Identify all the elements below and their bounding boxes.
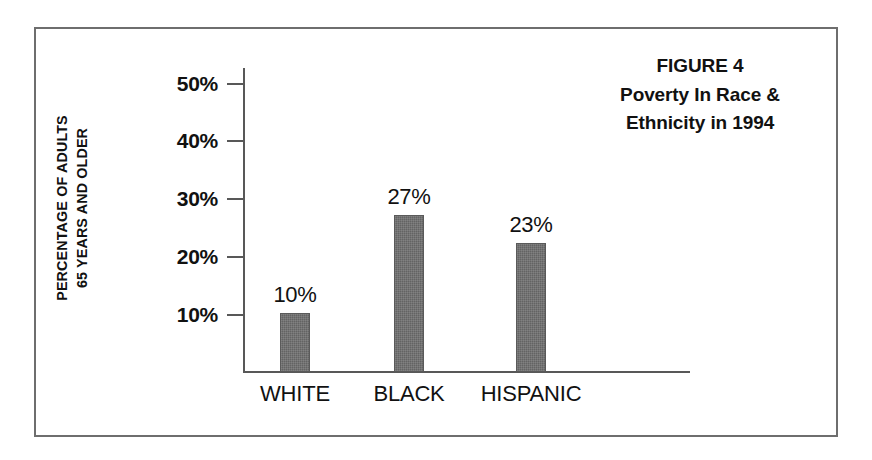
chart-title-line-3: Ethnicity in 1994 (560, 109, 840, 138)
bar-black (394, 215, 424, 372)
y-tick-label-50-wrap: 50% (148, 72, 218, 94)
y-tick-label-30-wrap: 30% (148, 187, 218, 209)
y-tick-label-30: 30% (148, 187, 218, 211)
y-tick-label-40-wrap: 40% (148, 129, 218, 151)
bar-value-white: 10% (273, 282, 316, 308)
bar-category-white: WHITE (260, 381, 330, 407)
bar-category-black: BLACK (373, 381, 444, 407)
y-tick-label-10-wrap: 10% (148, 303, 218, 325)
chart-title-line-2: Poverty In Race & (560, 81, 840, 110)
y-axis-title-line-2: 65 YEARS AND OLDER (72, 93, 92, 323)
y-tick-label-20: 20% (148, 245, 218, 269)
bar-hispanic (516, 243, 546, 372)
bar-group-black: 27% BLACK (349, 0, 469, 460)
chart-title: FIGURE 4 Poverty In Race & Ethnicity in … (560, 52, 840, 138)
chart-plot-area: PERCENTAGE OF ADULTS 65 YEARS AND OLDER … (0, 0, 872, 460)
y-axis-title-line-1: PERCENTAGE OF ADULTS (52, 93, 72, 323)
y-axis-title: PERCENTAGE OF ADULTS 65 YEARS AND OLDER (52, 83, 92, 333)
y-tick-label-40: 40% (148, 129, 218, 153)
y-tick-label-10: 10% (148, 303, 218, 327)
bar-category-hispanic: HISPANIC (481, 381, 582, 407)
y-tick-label-20-wrap: 20% (148, 245, 218, 267)
bar-value-hispanic: 23% (509, 212, 552, 238)
y-tick-label-50: 50% (148, 72, 218, 96)
bar-white (280, 313, 310, 372)
bar-value-black: 27% (387, 184, 430, 210)
bar-group-white: 10% WHITE (235, 0, 355, 460)
bar-group-hispanic: 23% HISPANIC (471, 0, 591, 460)
chart-title-line-1: FIGURE 4 (560, 52, 840, 81)
